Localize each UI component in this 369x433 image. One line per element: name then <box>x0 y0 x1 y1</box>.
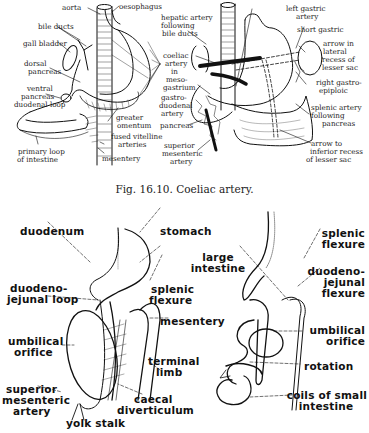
label-arrow-inferior-3: of lesser sac <box>306 156 351 164</box>
label-duodenum: duodenum <box>20 226 84 237</box>
figure-caption: Fig. 16.10. Coeliac artery. <box>0 183 369 195</box>
label-fused-vitelline-2: arteries <box>118 141 147 149</box>
label-gall-bladder: gall bladder <box>23 40 67 48</box>
label-splenic-artery-3: pancreas <box>322 120 355 128</box>
label-rotation: rotation <box>304 361 353 372</box>
label-gastroduodenal-3: artery <box>161 110 183 118</box>
label-umbilical-orifice-right-2: orifice <box>300 336 365 347</box>
label-left-gastric-2: artery <box>296 13 318 21</box>
label-caecal-diverticulum-2: diverticulum <box>117 405 194 416</box>
label-primary-loop-2: of intestine <box>17 156 58 164</box>
label-greater-omentum-2: omentum <box>117 122 151 130</box>
label-splenic-flexure-left-2: flexure <box>149 295 192 306</box>
label-oesophagus: oesophagus <box>119 3 162 11</box>
label-mesentery-bottom: mesentery <box>160 316 225 327</box>
bottom-left-drawing <box>59 228 160 420</box>
label-umbilical-orifice-left-2: orifice <box>14 347 53 358</box>
label-bile-ducts: bile ducts <box>38 23 74 31</box>
label-terminal-limb-2: limb <box>156 367 182 378</box>
bottom-right-drawing <box>217 212 305 410</box>
label-aorta: aorta <box>62 4 81 12</box>
label-duodenojejunal-loop-2: jejunal loop <box>7 294 79 305</box>
label-yolk-stalk: yolk stalk <box>66 418 125 429</box>
label-dorsal-pancreas-2: pancreas <box>28 68 61 76</box>
label-hepatic-artery-3: bile ducts <box>162 30 198 38</box>
label-duodenojejunal-flexure-3: flexure <box>300 288 365 299</box>
label-coils-small-intestine-2: intestine <box>290 401 362 412</box>
label-sup-mesenteric-3: artery <box>170 158 192 166</box>
label-sup-mesenteric-bottom-3: artery <box>13 406 51 417</box>
label-splenic-flexure-right-2: flexure <box>300 239 365 250</box>
label-duodenal-loop: duodenal loop <box>14 101 65 109</box>
label-pancreas: pancreas <box>160 122 193 130</box>
label-mesentery: mesentery <box>102 155 140 163</box>
label-large-intestine-2: intestine <box>188 263 248 274</box>
label-short-gastric: short gastric <box>297 26 343 34</box>
label-arrow-lateral-4: lesser sac <box>322 64 358 72</box>
label-right-gastroepiploic-2: epiploic <box>319 87 348 95</box>
label-coeliac-5: gastrium <box>163 84 196 92</box>
label-stomach: stomach <box>160 226 212 237</box>
